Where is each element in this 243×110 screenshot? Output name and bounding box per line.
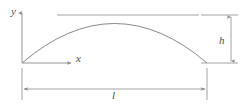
arch-diagram-figure: y x h l — [0, 0, 243, 110]
figure-drawing-canvas — [0, 0, 243, 110]
x-axis-label: x — [76, 53, 81, 64]
height-dimension-label: h — [219, 35, 225, 46]
y-axis-label: y — [11, 6, 16, 17]
span-dimension-label: l — [112, 90, 115, 101]
parabolic-arch-curve — [22, 24, 207, 64]
